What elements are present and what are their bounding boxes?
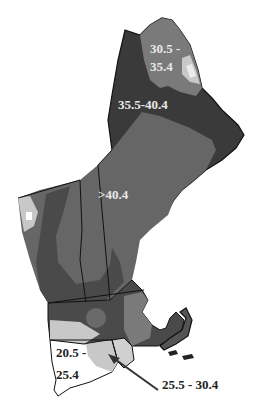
new-england-map <box>0 0 261 416</box>
label-callout: 25.5 - 30.4 <box>162 376 218 393</box>
label-north-maine-1: 30.5 - <box>150 40 180 57</box>
vermont-white-dot <box>26 212 32 220</box>
label-central-maine: 35.5-40.4 <box>118 96 168 113</box>
label-connecticut-2: 25.4 <box>56 366 79 383</box>
label-north-maine-2: 35.4 <box>150 58 173 75</box>
islands <box>168 350 194 360</box>
label-interior: >40.4 <box>98 186 128 203</box>
label-connecticut-1: 20.5 - <box>56 344 86 361</box>
callout-arrow <box>112 357 158 390</box>
massachusetts-circle <box>86 308 106 328</box>
